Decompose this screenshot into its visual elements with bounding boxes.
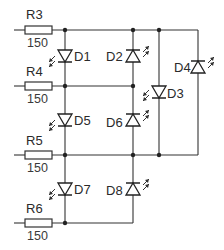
led-icon [152, 86, 166, 98]
led-label: D3 [167, 86, 184, 101]
led-icon [58, 114, 72, 126]
resistor-r6: R6 150 [25, 201, 52, 243]
led-label: D6 [106, 115, 123, 130]
resistor-body [25, 219, 52, 227]
light-emission-icon [143, 110, 149, 121]
junction-dot [157, 28, 161, 32]
led-icon [126, 50, 140, 62]
led-d5: D5 [49, 113, 91, 131]
led-label: D4 [174, 60, 191, 75]
led-label: D1 [74, 49, 91, 64]
resistor-body [25, 151, 52, 159]
led-d8: D8 [106, 179, 149, 198]
led-d3: D3 [143, 86, 184, 101]
led-d7: D7 [49, 182, 91, 200]
light-emission-icon [208, 57, 214, 68]
junction-dot [131, 153, 135, 157]
junction-dot [63, 153, 67, 157]
led-label: D8 [106, 183, 123, 198]
junction-dot [157, 153, 161, 157]
led-icon [126, 114, 140, 126]
resistor-body [25, 82, 52, 90]
resistor-value: 150 [27, 161, 48, 175]
junction-dot [63, 84, 67, 88]
led-d4: D4 [174, 57, 214, 75]
resistor-r4: R4 150 [25, 64, 52, 106]
light-emission-icon [49, 56, 55, 67]
led-charlieplex-schematic: R3 150 R4 150 R5 150 R6 150 D1 [0, 0, 224, 250]
led-d6: D6 [106, 110, 149, 130]
led-icon [58, 183, 72, 195]
light-emission-icon [49, 120, 55, 131]
resistor-r3: R3 150 [25, 7, 52, 50]
resistor-value: 150 [27, 229, 48, 243]
led-label: D7 [74, 182, 91, 197]
led-d2: D2 [106, 46, 149, 64]
resistor-body [25, 26, 52, 34]
resistor-value: 150 [27, 36, 48, 50]
led-d1: D1 [49, 49, 91, 67]
resistor-label: R3 [26, 7, 43, 22]
junction-dot [131, 84, 135, 88]
resistor-r5: R5 150 [25, 133, 52, 175]
junction-dot [63, 28, 67, 32]
resistor-label: R6 [26, 201, 43, 216]
junction-dot [131, 28, 135, 32]
resistor-label: R4 [26, 64, 43, 79]
led-icon [126, 183, 140, 195]
light-emission-icon [143, 90, 149, 101]
light-emission-icon [143, 179, 149, 190]
led-icon [191, 61, 205, 73]
light-emission-icon [49, 189, 55, 200]
resistor-value: 150 [27, 92, 48, 106]
junction-dot [63, 221, 67, 225]
light-emission-icon [143, 46, 149, 57]
led-icon [58, 50, 72, 62]
resistor-label: R5 [26, 133, 43, 148]
led-label: D5 [74, 113, 91, 128]
led-label: D2 [106, 49, 123, 64]
